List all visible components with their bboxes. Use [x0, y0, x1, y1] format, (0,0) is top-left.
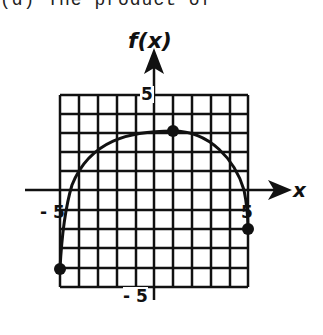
point-left-endpoint	[54, 263, 66, 275]
tick-label-y-top: 5	[140, 86, 154, 103]
tick-label-x-right: 5	[241, 203, 253, 221]
point-right-endpoint	[242, 223, 254, 235]
y-axis-label: f(x)	[128, 28, 172, 53]
point-maximum	[167, 125, 179, 137]
tick-label-x-left: - 5	[40, 203, 65, 221]
x-axis-label: x	[293, 178, 306, 202]
tick-label-y-bottom: - 5	[123, 287, 148, 305]
